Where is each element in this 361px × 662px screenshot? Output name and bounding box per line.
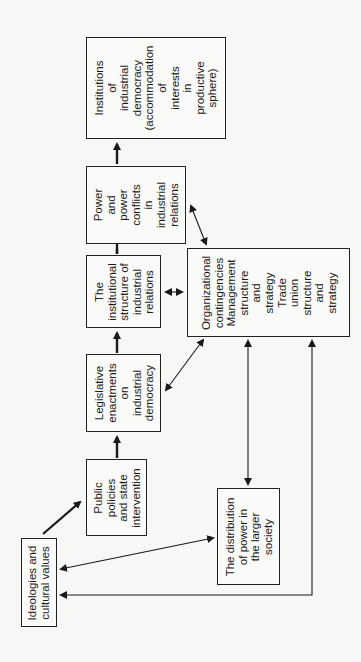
node-public-policies-label: Public policies and state intervention — [91, 459, 141, 536]
double-arrow-power-organizational — [191, 206, 206, 244]
node-ideologies: Ideologies and cultural values — [21, 538, 57, 627]
node-institutional-structure-label: The institutional structure of industria… — [92, 255, 155, 328]
node-ideologies-label: Ideologies and cultural values — [26, 538, 51, 627]
arrow-ideologies-to-public-policies — [43, 502, 80, 534]
node-legislative-label: Legislative enactments on industrial dem… — [92, 354, 155, 432]
node-distribution-label: The distribution of power in the larger … — [223, 488, 273, 585]
node-institutions: Institutions of industrial democracy (ac… — [86, 37, 226, 139]
node-institutions-label: Institutions of industrial democracy (ac… — [93, 37, 219, 139]
node-legislative: Legislative enactments on industrial dem… — [86, 354, 161, 432]
node-distribution: The distribution of power in the larger … — [217, 488, 280, 585]
node-organizational-label: Organizational contingencies Management … — [199, 248, 338, 337]
node-public-policies: Public policies and state intervention — [86, 459, 147, 536]
node-institutional-structure: The institutional structure of industria… — [86, 255, 161, 328]
double-arrow-legislative-organizational — [166, 340, 203, 390]
node-organizational: Organizational contingencies Management … — [187, 248, 350, 337]
node-power-label: Power and power conflicts in industrial … — [92, 166, 180, 244]
node-power: Power and power conflicts in industrial … — [86, 166, 186, 244]
double-arrow-ideologies-distribution — [61, 538, 213, 569]
